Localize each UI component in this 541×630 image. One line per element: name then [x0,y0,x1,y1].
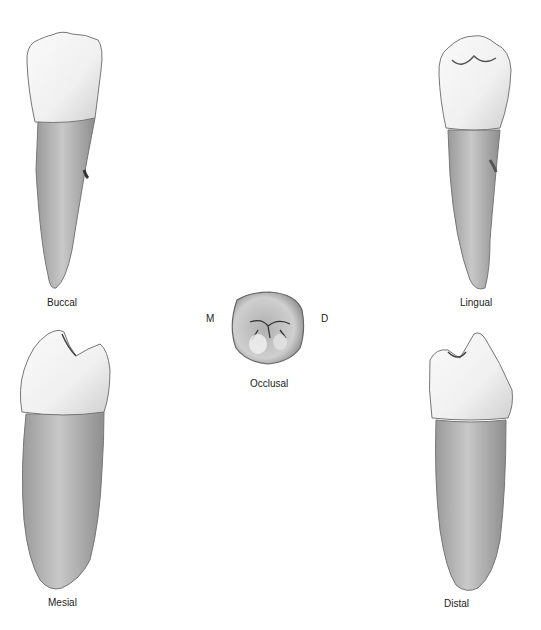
tooth-drawings [0,0,541,630]
lingual-label: Lingual [460,297,492,308]
occlusal-label: Occlusal [250,378,288,389]
mesial-label: Mesial [48,597,77,608]
buccal-tooth-view [27,32,102,288]
lingual-tooth-view [439,36,511,289]
buccal-label: Buccal [47,297,77,308]
tooth-illustration-plate: Buccal Lingual Occlusal Mesial Distal M … [0,0,541,630]
distal-tooth-view [429,333,512,591]
distal-label: Distal [444,598,469,609]
distal-orientation-marker: D [321,313,328,324]
mesial-orientation-marker: M [206,313,214,324]
occlusal-tooth-view [232,292,303,364]
mesial-tooth-view [20,330,110,589]
